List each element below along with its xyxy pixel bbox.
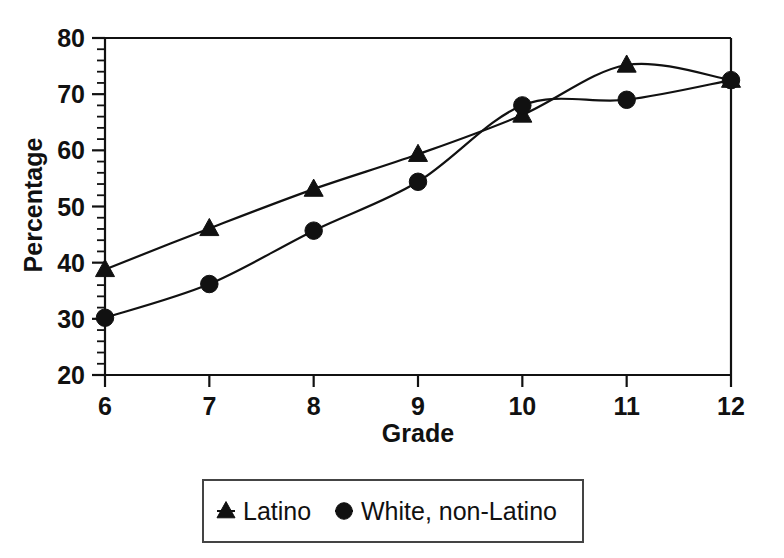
- y-tick-label: 80: [57, 24, 85, 52]
- y-tick-label: 70: [57, 80, 85, 108]
- x-tick-label: 10: [508, 392, 536, 420]
- circle-marker-icon: [336, 503, 353, 520]
- series-2: [96, 71, 739, 326]
- y-axis-title: Percentage: [19, 138, 47, 273]
- x-axis-ticks: [105, 375, 731, 387]
- triangle-marker-icon: [217, 502, 235, 518]
- y-tick-label: 30: [57, 305, 85, 333]
- legend-entry-2[interactable]: White, non-Latino: [335, 497, 557, 525]
- legend-label: White, non-Latino: [361, 497, 557, 525]
- y-tick-label: 50: [57, 193, 85, 221]
- x-tick-label: 11: [613, 392, 640, 420]
- y-tick-label: 20: [57, 361, 85, 389]
- legend-entry-1[interactable]: Latino: [217, 497, 311, 525]
- circle-marker-icon: [96, 309, 113, 326]
- series-1: [96, 55, 741, 277]
- circle-marker-icon: [618, 91, 635, 108]
- series-line-circle: [105, 80, 731, 318]
- circle-marker-icon: [201, 275, 218, 292]
- series-layer: [96, 55, 741, 326]
- x-tick-label: 12: [717, 392, 745, 420]
- x-tick-label: 8: [307, 392, 321, 420]
- y-tick-label: 60: [57, 136, 85, 164]
- circle-marker-icon: [722, 71, 739, 88]
- chart-legend: LatinoWhite, non-Latino: [203, 480, 583, 542]
- x-axis-title: Grade: [382, 419, 454, 447]
- x-axis-tick-labels: 6789101112: [98, 392, 745, 420]
- y-axis-tick-labels: 20304050607080: [57, 24, 85, 389]
- circle-marker-icon: [514, 97, 531, 114]
- legend-entries: LatinoWhite, non-Latino: [217, 497, 557, 525]
- plot-frame: [105, 38, 731, 375]
- x-tick-label: 9: [411, 392, 425, 420]
- x-tick-label: 7: [202, 392, 216, 420]
- circle-marker-icon: [305, 222, 322, 239]
- circle-marker-icon: [409, 173, 426, 190]
- series-line-triangle: [105, 64, 731, 270]
- legend-label: Latino: [243, 497, 311, 525]
- chart-container: 20304050607080 6789101112 Percentage Gra…: [0, 0, 784, 558]
- line-chart: 20304050607080 6789101112 Percentage Gra…: [0, 0, 784, 558]
- x-tick-label: 6: [98, 392, 112, 420]
- y-tick-label: 40: [57, 249, 85, 277]
